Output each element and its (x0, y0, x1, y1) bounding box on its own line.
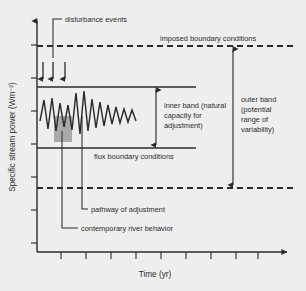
outer-band-label-line4: variability) (241, 125, 274, 134)
figure-background (0, 0, 306, 291)
stream-power-diagram: Specific stream power (Wm⁻²) Time (yr) (0, 0, 306, 291)
inner-band-label-line1: inner band (natural (164, 101, 226, 110)
inner-band-label-line2: capacity for (164, 111, 202, 120)
pathway-of-adjustment-label: pathway of adjustment (91, 205, 165, 214)
outer-band-label-line3: range of (241, 115, 269, 124)
figure-container: Specific stream power (Wm⁻²) Time (yr) (0, 0, 306, 291)
outer-band-label-line1: outer band (241, 95, 276, 104)
imposed-boundary-conditions-label: imposed boundary conditions (160, 34, 256, 43)
inner-band-label-line3: adjustment) (164, 121, 203, 130)
outer-band-label-line2: (potential (241, 105, 272, 114)
flux-boundary-conditions-label: flux boundary conditions (94, 152, 174, 161)
y-axis-title: Specific stream power (Wm⁻²) (8, 82, 17, 192)
x-axis-title: Time (yr) (139, 270, 172, 279)
disturbance-events-label: disturbance events (65, 15, 127, 24)
contemporary-river-behavior-label: contemporary river behavior (81, 224, 174, 233)
